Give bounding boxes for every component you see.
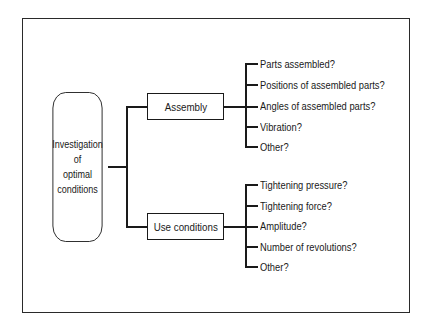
assembly-tick-4 — [245, 126, 258, 128]
use-conditions-tick-2 — [245, 205, 258, 207]
assembly-connector — [224, 106, 258, 108]
assembly-item-2: Positions of assembled parts? — [260, 78, 385, 92]
use-conditions-item-3: Amplitude? — [260, 219, 307, 233]
trunk-to-use-conditions — [126, 226, 147, 228]
use-conditions-tick-4 — [245, 246, 258, 248]
assembly-items-vertical — [245, 63, 247, 147]
root-label-line-4: conditions — [57, 182, 98, 197]
trunk-to-assembly — [126, 106, 147, 108]
assembly-item-1: Parts assembled? — [260, 57, 335, 71]
use-conditions-connector — [224, 226, 258, 228]
trunk-vertical — [126, 106, 128, 228]
root-label-line-3: optimal — [63, 167, 92, 182]
branch-box-assembly: Assembly — [147, 93, 224, 120]
use-conditions-items-vertical — [245, 184, 247, 267]
branch-label-use-conditions: Use conditions — [153, 221, 217, 233]
use-conditions-tick-5 — [245, 266, 258, 268]
use-conditions-item-2: Tightening force? — [260, 199, 332, 213]
assembly-tick-1 — [245, 63, 258, 65]
branch-label-assembly: Assembly — [164, 101, 206, 113]
assembly-tick-5 — [245, 146, 258, 148]
use-conditions-tick-1 — [245, 184, 258, 186]
root-node: Investigation of optimal conditions — [52, 92, 102, 242]
branch-box-use-conditions: Use conditions — [147, 213, 224, 240]
assembly-item-5: Other? — [260, 140, 289, 154]
use-conditions-item-5: Other? — [260, 260, 289, 274]
use-conditions-item-4: Number of revolutions? — [260, 240, 357, 254]
assembly-item-3: Angles of assembled parts? — [260, 99, 375, 113]
root-label-line-2: of — [74, 152, 82, 167]
root-connector — [108, 166, 126, 168]
use-conditions-item-1: Tightening pressure? — [260, 178, 347, 192]
assembly-item-4: Vibration? — [260, 120, 302, 134]
assembly-tick-2 — [245, 84, 258, 86]
root-label-line-1: Investigation — [52, 137, 103, 152]
